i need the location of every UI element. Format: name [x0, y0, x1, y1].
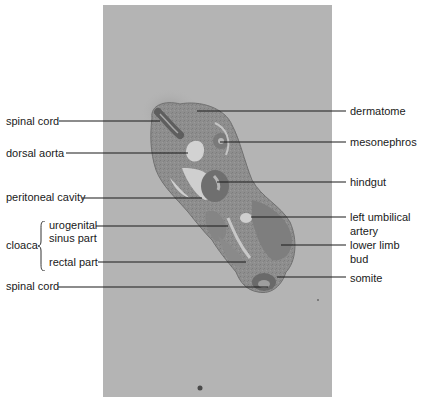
- label-spinal-cord-lower: spinal cord: [6, 279, 59, 293]
- label-bud: bud: [350, 252, 368, 266]
- label-mesonephros: mesonephros: [350, 135, 417, 149]
- label-cloaca: cloaca: [6, 238, 38, 252]
- label-sinus-part: sinus part: [49, 231, 97, 245]
- label-somite: somite: [350, 271, 382, 285]
- label-artery: artery: [350, 224, 378, 238]
- label-lower-limb: lower limb: [350, 238, 400, 252]
- label-dermatome: dermatome: [350, 104, 406, 118]
- label-dorsal-aorta: dorsal aorta: [6, 146, 64, 160]
- label-hindgut: hindgut: [350, 175, 386, 189]
- label-peritoneal-cavity: peritoneal cavity: [6, 190, 86, 204]
- label-spinal-cord-upper: spinal cord: [6, 114, 59, 128]
- label-rectal-part: rectal part: [49, 255, 98, 269]
- label-left-umbilical: left umbilical: [350, 210, 411, 224]
- label-urogenital: urogenital: [49, 218, 97, 232]
- cloaca-brace-icon: [38, 221, 46, 271]
